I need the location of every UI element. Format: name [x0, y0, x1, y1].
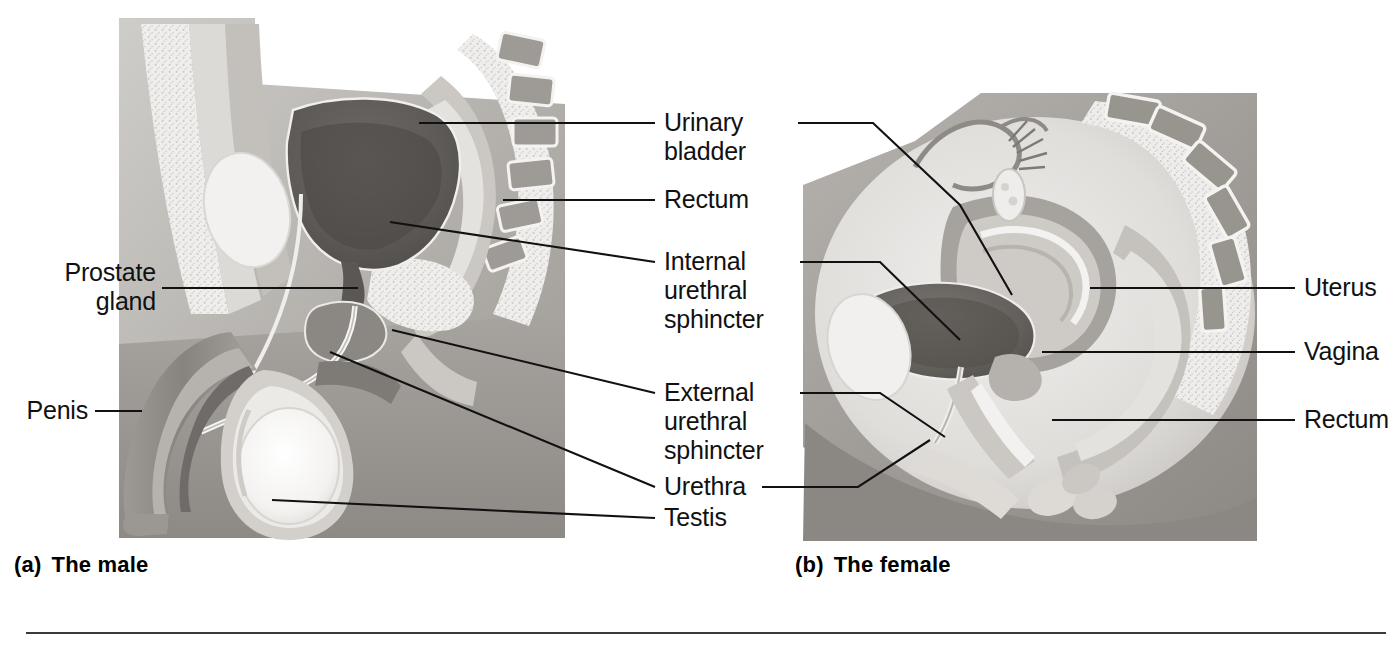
caption-female-letter: (b)	[795, 552, 824, 577]
caption-male: (a)The male	[14, 552, 148, 578]
label-vagina: Vagina	[1304, 337, 1379, 366]
male-illustration	[105, 14, 575, 542]
label-penis: Penis	[0, 396, 88, 425]
anatomy-figure: Prostate gland Penis Urinary bladder Rec…	[0, 0, 1393, 648]
female-sagittal-section	[795, 75, 1275, 543]
caption-male-text: The male	[52, 552, 149, 577]
label-urethra: Urethra	[664, 472, 746, 501]
label-rectum-female: Rectum	[1304, 405, 1389, 434]
label-urinary-bladder: Urinary bladder	[664, 108, 746, 166]
female-illustration	[795, 75, 1275, 543]
figure-divider-rule	[26, 632, 1386, 634]
label-rectum-male: Rectum	[664, 185, 749, 214]
caption-male-letter: (a)	[14, 552, 42, 577]
label-prostate-gland: Prostate gland	[0, 258, 156, 316]
caption-female-text: The female	[834, 552, 951, 577]
caption-female: (b)The female	[795, 552, 951, 578]
label-uterus: Uterus	[1304, 273, 1376, 302]
label-external-urethral-sphincter: External urethral sphincter	[664, 378, 764, 465]
label-internal-urethral-sphincter: Internal urethral sphincter	[664, 247, 764, 334]
label-testis: Testis	[664, 503, 727, 532]
male-sagittal-section	[105, 14, 575, 542]
